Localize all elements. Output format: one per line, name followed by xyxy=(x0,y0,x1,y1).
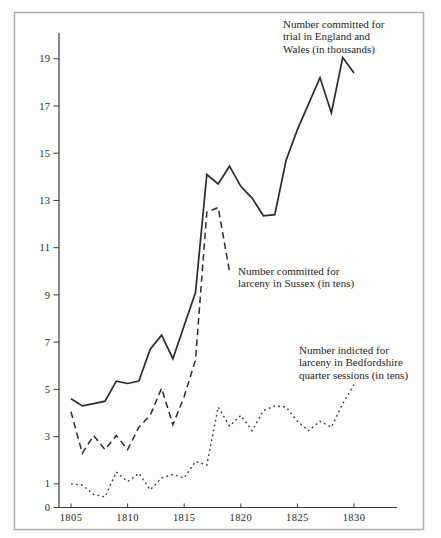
x-tick-label: 1805 xyxy=(60,512,83,523)
annotation-line: larceny in Sussex (in tens) xyxy=(238,277,354,289)
y-tick-label: 11 xyxy=(40,242,51,253)
y-tick-label: 17 xyxy=(39,101,50,112)
y-tick-label: 7 xyxy=(45,337,51,348)
x-tick-label: 1815 xyxy=(173,512,196,523)
y-tick-label: 1 xyxy=(45,478,51,489)
series-line-dashed xyxy=(71,208,230,454)
series-line-dotted xyxy=(71,385,354,497)
annotation-line: larceny in Bedfordshire xyxy=(299,356,408,368)
annotation-england-wales: Number committed for trial in England an… xyxy=(283,18,384,55)
annotation-line: Wales (in thousands) xyxy=(283,43,384,55)
annotation-line: trial in England and xyxy=(283,30,384,42)
x-tick-label: 1830 xyxy=(343,512,366,523)
y-tick-label: 5 xyxy=(45,384,51,395)
y-tick-label: 19 xyxy=(39,53,50,64)
y-tick-label: 15 xyxy=(39,148,50,159)
annotation-bedfordshire: Number indicted for larceny in Bedfordsh… xyxy=(299,344,408,381)
annotation-line: Number indicted for xyxy=(299,344,408,356)
y-tick-label: 3 xyxy=(45,431,51,442)
x-tick-label: 1810 xyxy=(116,512,139,523)
annotation-line: Number committed for xyxy=(238,265,354,277)
y-tick-label: 13 xyxy=(39,195,50,206)
figure-page: 0135791113151719180518101815182018251830… xyxy=(0,0,441,538)
annotation-line: Number committed for xyxy=(283,18,384,30)
chart-canvas: 0135791113151719180518101815182018251830 xyxy=(0,0,441,538)
y-tick-label: 9 xyxy=(45,290,51,301)
figure-frame xyxy=(15,13,424,530)
annotation-sussex: Number committed for larceny in Sussex (… xyxy=(238,265,354,290)
annotation-line: quarter sessions (in tens) xyxy=(299,369,408,381)
x-tick-label: 1820 xyxy=(229,512,252,523)
y-tick-label: 0 xyxy=(45,502,51,513)
x-tick-label: 1825 xyxy=(286,512,309,523)
